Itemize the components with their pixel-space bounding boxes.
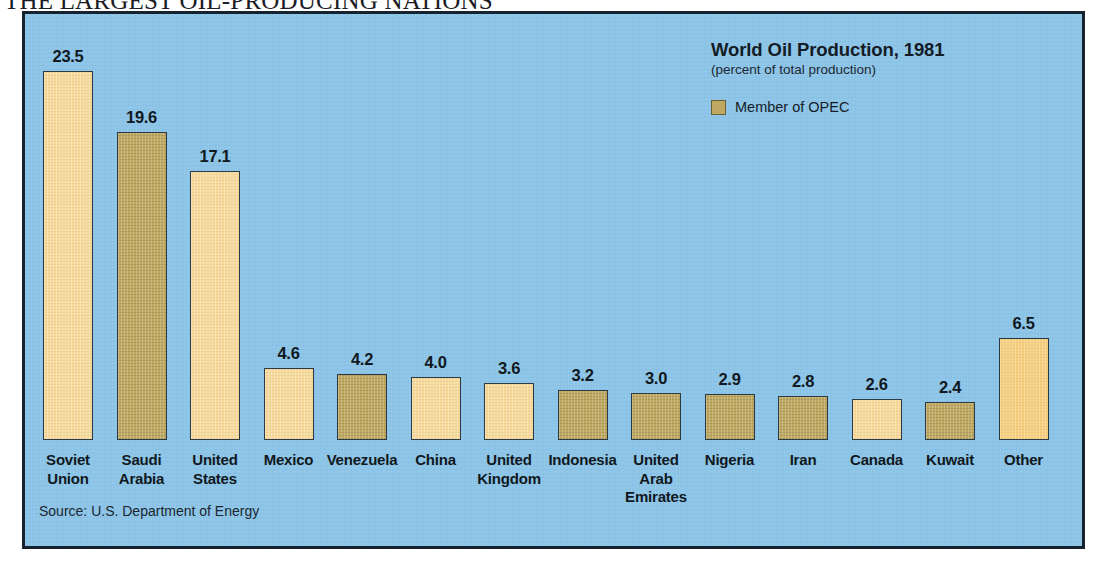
- bar-saudi-arabia: [117, 132, 167, 440]
- bar-plot-area: 23.5SovietUnion19.6SaudiArabia17.1United…: [25, 14, 1082, 546]
- bar-value-united-kingdom: 3.6: [479, 359, 539, 378]
- bar-value-united-states: 17.1: [185, 147, 245, 166]
- bar-indonesia: [558, 390, 608, 440]
- bar-value-venezuela: 4.2: [332, 350, 392, 369]
- bar-other: [999, 338, 1049, 440]
- bar-venezuela: [337, 374, 387, 440]
- bar-value-indonesia: 3.2: [553, 366, 613, 385]
- bar-kuwait: [925, 402, 975, 440]
- source-note: Source: U.S. Department of Energy: [39, 503, 259, 519]
- bar-value-china: 4.0: [406, 353, 466, 372]
- bar-iran: [778, 396, 828, 440]
- bar-soviet-union: [43, 71, 93, 440]
- chart-panel: World Oil Production, 1981 (percent of t…: [22, 11, 1085, 549]
- bar-united-states: [190, 171, 240, 440]
- bar-china: [411, 377, 461, 440]
- bar-value-soviet-union: 23.5: [38, 47, 98, 66]
- bar-label-other: Other: [969, 451, 1079, 470]
- bar-value-saudi-arabia: 19.6: [112, 108, 172, 127]
- bar-canada: [852, 399, 902, 440]
- bar-mexico: [264, 368, 314, 440]
- bar-value-mexico: 4.6: [259, 344, 319, 363]
- bar-value-united-arab-emirates: 3.0: [626, 369, 686, 388]
- bar-value-canada: 2.6: [847, 375, 907, 394]
- bar-united-arab-emirates: [631, 393, 681, 440]
- bar-united-kingdom: [484, 383, 534, 440]
- bar-value-kuwait: 2.4: [920, 378, 980, 397]
- bar-value-other: 6.5: [994, 314, 1054, 333]
- page-headline-strip: THE LARGEST OIL-PRODUCING NATIONS: [0, 0, 1098, 11]
- bar-nigeria: [705, 394, 755, 440]
- bar-value-iran: 2.8: [773, 372, 833, 391]
- bar-value-nigeria: 2.9: [700, 370, 760, 389]
- page-title: THE LARGEST OIL-PRODUCING NATIONS: [4, 0, 493, 11]
